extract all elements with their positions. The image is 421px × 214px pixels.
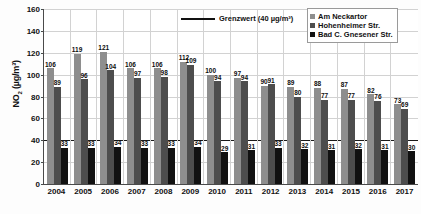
bar-group: 1199633 (71, 9, 98, 184)
bar: 98 (161, 77, 168, 184)
bar: 100 (207, 75, 214, 184)
bar: 90 (261, 86, 268, 184)
bar-value-label: 34 (194, 140, 201, 147)
bar-value-label: 31 (248, 144, 255, 151)
bar-value-label: 33 (141, 141, 148, 148)
bar-group: 1009429 (204, 9, 231, 184)
legend-item: Am Neckartor (310, 13, 393, 21)
bar-value-label: 29 (221, 146, 228, 153)
x-axis-tick-label: 2008 (150, 187, 177, 196)
y-axis-tick-label: 120 (14, 48, 40, 57)
x-axis-labels: 2004200520062007200820092010201120122013… (43, 187, 418, 196)
bar-value-label: 109 (186, 58, 197, 65)
y-axis-tick-label: 40 (14, 136, 40, 145)
bar: 94 (214, 81, 221, 184)
bar: 106 (127, 68, 134, 184)
bar-value-label: 106 (152, 62, 163, 69)
bar-group: 1069833 (151, 9, 178, 184)
y-axis-tick-label: 0 (14, 180, 40, 189)
legend-threshold-label: Grenzwert (40 µg/m³) (219, 14, 293, 23)
legend-color-swatch (310, 32, 315, 37)
legend-item: Bad C. Gnesener Str. (310, 31, 393, 39)
bar-value-label: 33 (87, 141, 94, 148)
bar-group: 909133 (258, 9, 285, 184)
bar-value-label: 96 (80, 73, 87, 80)
y-axis-tick-label: 160 (14, 5, 40, 14)
bar: 80 (294, 97, 301, 185)
x-axis-tick-label: 2004 (43, 187, 70, 196)
bar: 109 (187, 65, 194, 184)
x-axis-tick-label: 2012 (257, 187, 284, 196)
bar: 94 (241, 81, 248, 184)
bar-value-label: 97 (134, 71, 141, 78)
y-axis-tick-label: 80 (14, 92, 40, 101)
legend-item-label: Bad C. Gnesener Str. (318, 31, 393, 39)
x-axis-tick-label: 2016 (364, 187, 391, 196)
bar: 112 (180, 62, 187, 185)
bar-value-label: 106 (45, 62, 56, 69)
bar-value-label: 80 (294, 90, 301, 97)
bar-value-label: 98 (161, 70, 168, 77)
bar: 91 (268, 84, 275, 184)
legend-item-label: Hohenheimer Str. (318, 22, 380, 30)
bar-value-label: 32 (301, 143, 308, 150)
bar-value-label: 106 (125, 62, 136, 69)
y-axis-tick (41, 184, 44, 185)
bar: 34 (194, 147, 201, 184)
x-axis-tick-label: 2005 (70, 187, 97, 196)
bar-group: 1069733 (124, 9, 151, 184)
bar-group: 1068933 (44, 9, 71, 184)
bar: 31 (328, 150, 335, 184)
bar: 88 (314, 88, 321, 184)
bar-group: 12110434 (97, 9, 124, 184)
bar: 29 (221, 152, 228, 184)
bar-value-label: 34 (114, 140, 121, 147)
bar: 104 (107, 70, 114, 184)
bar: 89 (287, 87, 294, 184)
y-axis-tick-label: 20 (14, 158, 40, 167)
bar: 96 (81, 79, 88, 184)
bar-value-label: 69 (401, 102, 408, 109)
bar-value-label: 89 (287, 80, 294, 87)
bar: 31 (248, 150, 255, 184)
bar-value-label: 76 (374, 94, 381, 101)
x-axis-tick-label: 2010 (204, 187, 231, 196)
legend-color-swatch (310, 23, 315, 28)
bar: 32 (301, 149, 308, 184)
x-axis-tick-label: 2013 (284, 187, 311, 196)
legend-threshold: Grenzwert (40 µg/m³) (181, 14, 293, 23)
bar: 33 (61, 148, 68, 184)
bar-value-label: 31 (381, 144, 388, 151)
bar-value-label: 104 (105, 64, 116, 71)
bar-group: 979431 (231, 9, 258, 184)
legend-series-box: Am NeckartorHohenheimer Str.Bad C. Gnese… (307, 8, 398, 43)
x-axis-tick-label: 2007 (123, 187, 150, 196)
bar-value-label: 121 (98, 45, 109, 52)
bar: 34 (114, 147, 121, 184)
bar-group: 11210934 (178, 9, 205, 184)
bar: 121 (100, 52, 107, 184)
bar-value-label: 77 (321, 93, 328, 100)
bar: 106 (154, 68, 161, 184)
bar: 97 (134, 78, 141, 184)
bar: 33 (88, 148, 95, 184)
bar: 73 (394, 104, 401, 184)
bar-value-label: 88 (314, 81, 321, 88)
x-axis-tick-label: 2014 (311, 187, 338, 196)
bar: 32 (355, 149, 362, 184)
bar-value-label: 119 (72, 47, 83, 54)
bar-value-label: 77 (348, 93, 355, 100)
x-axis-tick-label: 2011 (230, 187, 257, 196)
bar-value-label: 89 (54, 80, 61, 87)
bar: 82 (367, 94, 374, 184)
bar-value-label: 31 (328, 144, 335, 151)
bar-value-label: 33 (168, 141, 175, 148)
x-axis-tick-label: 2017 (391, 187, 418, 196)
bar: 89 (54, 87, 61, 184)
threshold-line-swatch (181, 18, 215, 20)
bar: 33 (168, 148, 175, 184)
x-axis-tick-label: 2006 (97, 187, 124, 196)
bar: 33 (141, 148, 148, 184)
bar: 31 (381, 150, 388, 184)
bar: 33 (275, 148, 282, 184)
